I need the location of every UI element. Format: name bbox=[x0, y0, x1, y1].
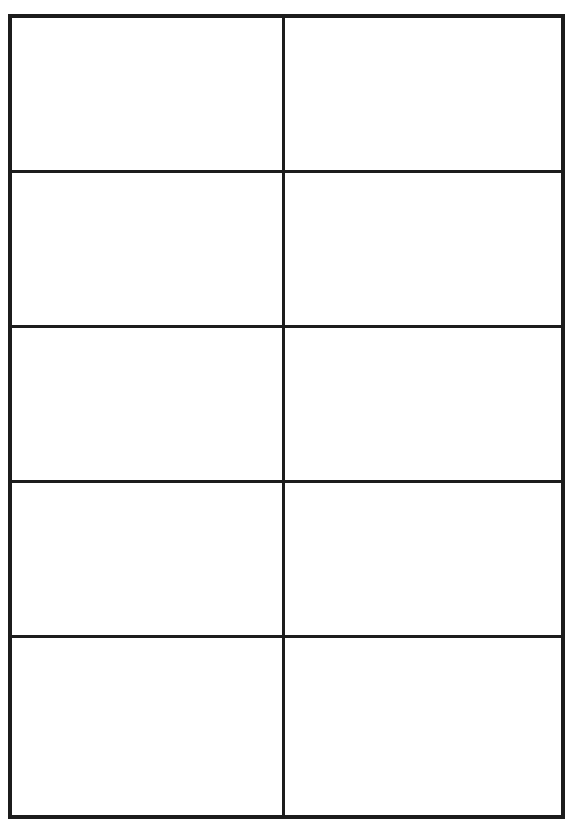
grid-cell-r4-c2 bbox=[285, 483, 561, 638]
grid-cell-r4-c1 bbox=[12, 483, 285, 638]
grid-cell-r2-c1 bbox=[12, 173, 285, 328]
grid-cell-r2-c2 bbox=[285, 173, 561, 328]
clipped-header-text bbox=[80, 0, 500, 3]
grid-cell-r1-c2 bbox=[285, 18, 561, 173]
document-page bbox=[0, 0, 573, 828]
blank-grid-table bbox=[8, 14, 565, 819]
grid-cell-r3-c2 bbox=[285, 328, 561, 483]
grid-cell-r5-c2 bbox=[285, 638, 561, 815]
grid-cell-r1-c1 bbox=[12, 18, 285, 173]
grid-cell-r5-c1 bbox=[12, 638, 285, 815]
grid-cell-r3-c1 bbox=[12, 328, 285, 483]
